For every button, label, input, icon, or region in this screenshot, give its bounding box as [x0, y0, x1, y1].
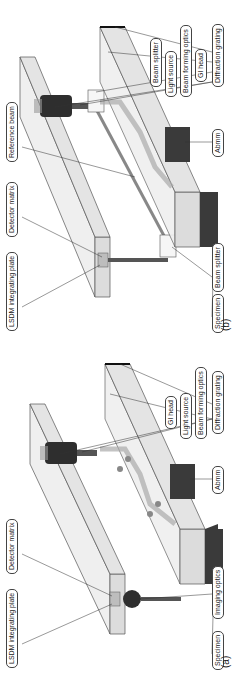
label-gi-head: GI head — [165, 396, 177, 429]
label-reference-beam: Reference beam — [6, 102, 18, 162]
label-light-source: Light source — [180, 393, 192, 439]
label-diffraction-grating: Diffraction grating — [212, 24, 224, 87]
label-detector-matrix: Detector matrix — [6, 182, 18, 237]
panel-b-tag: (b) — [220, 319, 231, 331]
label-gi-head: GI head — [195, 49, 207, 82]
label-lsdm-plate: LSDM integrating plate — [6, 589, 18, 668]
panel-a-tag: (a) — [220, 656, 231, 668]
label-imaging-optics: Imaging optics — [212, 566, 224, 619]
label-beam-forming-optics: Beam forming optics — [195, 367, 207, 439]
label-diffraction-grating: Diffraction grating — [212, 371, 224, 434]
label-detector-matrix: Detector matrix — [6, 519, 18, 574]
label-beam-splitter-upper: Beam splitter — [150, 38, 162, 87]
label-abmm: Abmm — [212, 466, 224, 494]
diagram-stage: LSDM integrating plate Detector matrix I… — [0, 0, 234, 674]
label-light-source: Light source — [165, 51, 177, 97]
panel-a: LSDM integrating plate Detector matrix I… — [0, 337, 234, 674]
panel-b: LSDM integrating plate Detector matrix R… — [0, 0, 234, 337]
label-abmm: Abmm — [212, 129, 224, 157]
label-lsdm-plate: LSDM integrating plate — [6, 252, 18, 331]
label-beam-forming-optics: Beam forming optics — [180, 25, 192, 97]
label-beam-splitter-lower: Beam splitter — [212, 243, 224, 292]
